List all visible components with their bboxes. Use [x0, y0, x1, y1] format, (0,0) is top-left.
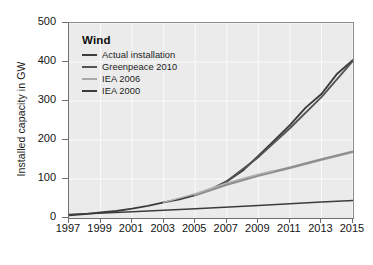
- legend-item: IEA 2006: [82, 73, 202, 84]
- wind-capacity-chart: Installed capacity in GW 010020030040050…: [0, 0, 373, 265]
- legend-item-label: IEA 2000: [102, 86, 140, 96]
- legend: Wind Actual installationGreenpeace 2010I…: [82, 34, 202, 97]
- y-tick-500: 500: [22, 17, 56, 26]
- legend-item: Greenpeace 2010: [82, 61, 202, 72]
- legend-item-label: Actual installation: [102, 50, 175, 60]
- legend-line-swatch-icon: [82, 66, 97, 68]
- legend-item: Actual installation: [82, 49, 202, 60]
- x-tick-2015: 2015: [332, 222, 372, 234]
- y-tick-400: 400: [22, 56, 56, 65]
- y-tick-200: 200: [22, 134, 56, 143]
- y-tick-300: 300: [22, 95, 56, 104]
- legend-item-label: Greenpeace 2010: [102, 62, 177, 72]
- legend-line-swatch-icon: [82, 90, 97, 92]
- series-line: [69, 200, 353, 214]
- series-line: [164, 170, 274, 202]
- legend-line-swatch-icon: [82, 78, 97, 80]
- legend-entries: Actual installationGreenpeace 2010IEA 20…: [82, 49, 202, 96]
- legend-item-label: IEA 2006: [102, 74, 140, 84]
- x-axis-tick-labels: 1997199920012003200520072009201120132015: [0, 222, 373, 242]
- series-line: [195, 152, 353, 195]
- legend-item: IEA 2000: [82, 85, 202, 96]
- y-tick-100: 100: [22, 173, 56, 182]
- y-tick-0: 0: [22, 212, 56, 221]
- legend-line-swatch-icon: [82, 54, 97, 56]
- legend-title: Wind: [82, 34, 202, 46]
